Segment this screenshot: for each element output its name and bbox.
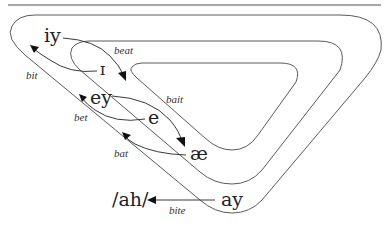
label-bet: bet [74, 112, 87, 123]
vowel-iy: iy [44, 26, 61, 45]
label-bit: bit [26, 70, 38, 81]
vowel-shift-diagram: iy ɪ ey e æ /ah/ ay beat bit bait bet ba… [0, 0, 391, 229]
outer-loop [10, 15, 381, 213]
label-bat: bat [114, 148, 128, 159]
vowel-ah: /ah/ [112, 190, 148, 209]
label-bite: bite [169, 205, 186, 216]
vowel-ay: ay [221, 190, 243, 209]
arrow-head-beat [118, 71, 126, 81]
arrow-bit [34, 49, 97, 72]
label-beat: beat [114, 45, 133, 56]
vowel-ae: æ [190, 144, 208, 163]
vowel-eh: e [148, 108, 159, 127]
vowel-ey: ey [90, 88, 112, 107]
arrow-head-bait [176, 137, 185, 147]
label-bait: bait [166, 94, 183, 105]
vowel-ih: ɪ [100, 62, 105, 78]
